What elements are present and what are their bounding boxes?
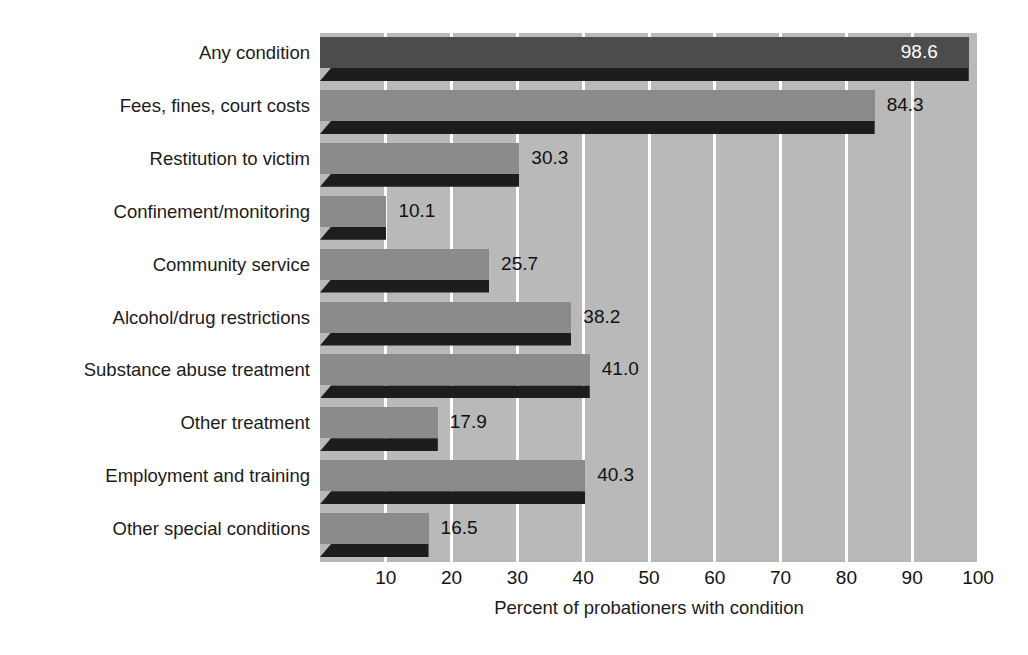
bar [320, 196, 386, 240]
bar-shadow [320, 385, 590, 398]
x-tick-label: 10 [375, 566, 396, 590]
x-axis-tick-labels: 102030405060708090100 [320, 566, 978, 594]
category-label: Alcohol/drug restrictions [10, 308, 310, 328]
bar-face [320, 37, 969, 68]
category-label: Fees, fines, court costs [10, 96, 310, 116]
bar-value-label: 10.1 [398, 200, 435, 222]
category-label: Community service [10, 255, 310, 275]
bar-value-label: 16.5 [441, 517, 478, 539]
x-tick-label: 60 [704, 566, 725, 590]
category-label: Any condition [10, 43, 310, 63]
bar [320, 143, 519, 187]
x-axis-title: Percent of probationers with condition [320, 597, 978, 619]
bar [320, 249, 489, 293]
bar-face [320, 90, 875, 121]
plot-area: 98.684.330.310.125.738.241.017.940.316.5 [320, 33, 978, 562]
bar [320, 90, 875, 134]
bar-chart: Any conditionFees, fines, court costsRes… [0, 0, 1028, 655]
bar-face [320, 354, 590, 385]
bar [320, 407, 438, 451]
category-label: Other treatment [10, 413, 310, 433]
bar-shadow [320, 544, 429, 557]
category-label: Confinement/monitoring [10, 202, 310, 222]
bar-value-label: 40.3 [597, 464, 634, 486]
bar-face [320, 460, 585, 491]
bar-shadow [320, 68, 969, 81]
category-label: Employment and training [10, 466, 310, 486]
x-tick-label: 40 [573, 566, 594, 590]
bar-shadow [320, 227, 386, 240]
bar [320, 37, 969, 81]
x-tick-label: 90 [902, 566, 923, 590]
x-tick-label: 30 [507, 566, 528, 590]
bar-shadow [320, 491, 585, 504]
bar-value-label: 17.9 [450, 411, 487, 433]
x-tick-label: 70 [770, 566, 791, 590]
bar-shadow [320, 121, 875, 134]
gridline [977, 33, 980, 562]
bar-face [320, 249, 489, 280]
bar-value-label: 25.7 [501, 253, 538, 275]
category-label: Other special conditions [10, 519, 310, 539]
bar [320, 302, 571, 346]
category-label: Restitution to victim [10, 149, 310, 169]
bar-face [320, 302, 571, 333]
bar-face [320, 513, 429, 544]
category-label: Substance abuse treatment [10, 360, 310, 380]
bar [320, 460, 585, 504]
bar-value-label: 30.3 [531, 147, 568, 169]
bar-value-label: 84.3 [887, 94, 924, 116]
bar-value-label: 41.0 [602, 358, 639, 380]
bar-face [320, 196, 386, 227]
x-tick-label: 80 [836, 566, 857, 590]
bar-shadow [320, 280, 489, 293]
bar [320, 354, 590, 398]
bar-shadow [320, 333, 571, 346]
category-axis-labels: Any conditionFees, fines, court costsRes… [0, 33, 310, 562]
bar-shadow [320, 174, 519, 187]
bar [320, 513, 429, 557]
x-tick-label: 100 [962, 566, 994, 590]
bar-shadow [320, 438, 438, 451]
bar-face [320, 407, 438, 438]
bar-face [320, 143, 519, 174]
x-tick-label: 20 [441, 566, 462, 590]
x-tick-label: 50 [638, 566, 659, 590]
bar-value-label: 38.2 [583, 306, 620, 328]
bar-value-label: 98.6 [901, 41, 938, 63]
